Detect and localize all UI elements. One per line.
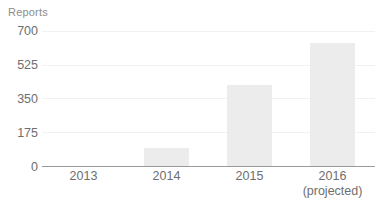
x-tick-2016-sub: (projected) xyxy=(291,184,374,199)
bar-slot-2014 xyxy=(125,31,208,166)
x-axis-tick-labels: 2013 2014 2015 2016 (projected) xyxy=(42,169,375,212)
x-tick-2016-main: 2016 xyxy=(319,169,347,183)
x-tick-label-2015: 2015 xyxy=(208,169,291,184)
x-tick-label-2013: 2013 xyxy=(42,169,125,184)
x-tick-label-2016: 2016 (projected) xyxy=(291,169,374,199)
bar-slot-2013 xyxy=(42,31,125,166)
bar-chart: Reports 700 525 350 175 0 2013 2014 xyxy=(0,0,391,212)
x-axis-line xyxy=(42,166,375,167)
y-tick-label-525: 525 xyxy=(4,59,38,72)
plot-area xyxy=(42,31,375,166)
bar-slot-2016 xyxy=(291,31,374,166)
x-tick-2014-main: 2014 xyxy=(153,169,181,183)
y-axis-tick-labels: 700 525 350 175 0 xyxy=(0,0,38,212)
y-tick-label-175: 175 xyxy=(4,127,38,140)
bar-2016 xyxy=(310,43,355,166)
x-tick-2015-main: 2015 xyxy=(236,169,264,183)
y-tick-label-350: 350 xyxy=(4,93,38,106)
y-tick-label-0: 0 xyxy=(4,161,38,174)
x-tick-label-2014: 2014 xyxy=(125,169,208,184)
x-tick-2013-main: 2013 xyxy=(70,169,98,183)
bar-2014 xyxy=(144,148,189,166)
bar-slot-2015 xyxy=(208,31,291,166)
bar-2015 xyxy=(227,85,272,166)
y-tick-label-700: 700 xyxy=(4,25,38,38)
